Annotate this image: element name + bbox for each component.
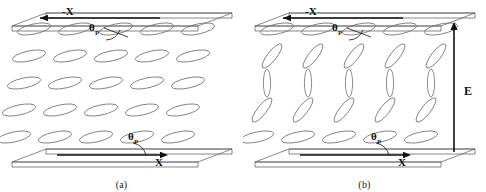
top-axis-label: -X: [62, 5, 74, 17]
bottom-substrate-plate: [255, 149, 475, 167]
lc-molecule: [0, 129, 32, 146]
bottom-substrate-plate: [12, 149, 232, 167]
top-axis-label: -X: [305, 5, 317, 17]
lc-molecule: [345, 69, 352, 97]
top-theta-symbol: θp: [332, 21, 342, 36]
top-axis-arrowhead: [40, 15, 48, 21]
lc-molecule: [42, 102, 77, 119]
lc-molecule: [93, 48, 128, 65]
lc-molecule: [331, 95, 357, 124]
lc-molecule: [290, 95, 316, 124]
bottom-substrate-plate-back-face: [46, 149, 232, 154]
panel-b: -XθpXθpE (b): [243, 0, 486, 192]
lc-molecule: [37, 129, 72, 146]
lc-molecule: [175, 48, 210, 65]
panel-a-caption: (a): [0, 179, 243, 190]
bottom-axis-label: X: [155, 156, 163, 168]
lc-molecule: [1, 102, 36, 119]
lc-molecule: [170, 75, 205, 92]
lc-molecule: [300, 41, 326, 70]
lc-molecule: [78, 129, 113, 146]
lc-molecule: [88, 75, 123, 92]
top-pretilt-angle-group: θp: [332, 21, 371, 40]
lc-molecule: [413, 95, 439, 124]
panel-b-drawing: -XθpXθpE: [243, 0, 486, 192]
lc-molecule: [382, 21, 417, 38]
lc-molecule: [134, 48, 169, 65]
lc-molecule: [243, 129, 275, 146]
lc-molecule: [165, 102, 200, 119]
lc-molecule: [300, 21, 335, 38]
lc-molecule: [57, 21, 92, 38]
bottom-substrate-plate-back-face: [289, 149, 475, 154]
lc-molecule: [263, 69, 270, 97]
lc-molecule: [259, 21, 294, 38]
lc-molecule: [98, 21, 133, 38]
top-theta-symbol: θp: [89, 21, 99, 36]
lc-molecule: [427, 69, 434, 97]
top-substrate-plate: [12, 13, 232, 31]
bottom-theta-subscript: p: [377, 137, 381, 145]
panel-a: -XθpXθp (a): [0, 0, 243, 192]
top-substrate-plate: [255, 13, 475, 31]
lc-molecule: [6, 75, 41, 92]
lc-molecule: [382, 41, 408, 70]
lc-molecule: [16, 21, 51, 38]
lc-molecule: [423, 41, 449, 70]
lc-molecule: [129, 75, 164, 92]
lc-molecule: [52, 48, 87, 65]
field-label: E: [464, 84, 472, 98]
molecule-grid: [243, 21, 459, 146]
lc-molecule: [372, 95, 398, 124]
lc-molecule: [341, 41, 367, 70]
figure-container: -XθpXθp (a) -XθpXθpE (b): [0, 0, 486, 192]
electric-field-group: E: [450, 22, 472, 152]
lc-molecule: [259, 41, 285, 70]
bottom-theta-subscript: p: [134, 137, 138, 145]
lc-molecule: [124, 102, 159, 119]
bottom-axis-group: X: [300, 152, 411, 168]
top-axis-arrowhead: [283, 15, 291, 21]
panel-b-caption: (b): [243, 179, 486, 190]
lc-molecule: [249, 95, 275, 124]
bottom-substrate-plate-edge-face: [12, 162, 198, 167]
lc-molecule: [321, 129, 356, 146]
bottom-substrate-plate-edge-face: [255, 162, 441, 167]
bottom-axis-group: X: [57, 152, 168, 168]
lc-molecule: [139, 21, 174, 38]
lc-molecule: [11, 48, 46, 65]
lc-molecule: [304, 69, 311, 97]
panel-a-drawing: -XθpXθp: [0, 0, 243, 192]
top-theta-subscript: p: [95, 28, 99, 36]
lc-molecule: [160, 129, 195, 146]
lc-molecule: [280, 129, 315, 146]
bottom-axis-label: X: [398, 156, 406, 168]
molecule-grid: [0, 21, 216, 146]
lc-molecule: [47, 75, 82, 92]
lc-molecule: [341, 21, 376, 38]
top-theta-subscript: p: [338, 28, 342, 36]
lc-molecule: [83, 102, 118, 119]
top-pretilt-angle-group: θp: [89, 21, 128, 40]
bottom-pretilt-angle-group: θp: [371, 130, 389, 155]
lc-molecule: [386, 69, 393, 97]
bottom-pretilt-angle-group: θp: [128, 130, 146, 155]
lc-molecule: [403, 129, 438, 146]
